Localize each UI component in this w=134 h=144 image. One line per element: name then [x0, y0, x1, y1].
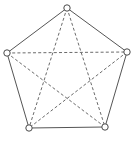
graph-vertex-top[interactable]: [64, 5, 70, 11]
graph-edge-top-to-bottom-left: [29, 8, 67, 128]
graph-vertex-right[interactable]: [124, 49, 130, 55]
edges-layer: [7, 8, 127, 128]
nodes-layer: [4, 5, 130, 131]
graph-edge-left-to-right: [7, 52, 127, 53]
graph-edge-right-to-bottom-right: [105, 52, 127, 127]
graph-vertex-left[interactable]: [4, 50, 10, 56]
graph-edge-top-to-bottom-right: [67, 8, 105, 127]
pentagon-graph-figure: [0, 0, 134, 144]
graph-vertex-bottom-right[interactable]: [102, 124, 108, 130]
graph-edge-bottom-right-to-bottom-left: [29, 127, 105, 128]
graph-edge-left-to-top: [7, 8, 67, 53]
graph-edge-left-to-bottom-right: [7, 53, 105, 127]
graph-edge-right-to-bottom-left: [29, 52, 127, 128]
graph-edge-bottom-left-to-left: [7, 53, 29, 128]
graph-vertex-bottom-left[interactable]: [26, 125, 32, 131]
graph-canvas: [0, 0, 134, 144]
graph-edge-top-to-right: [67, 8, 127, 52]
